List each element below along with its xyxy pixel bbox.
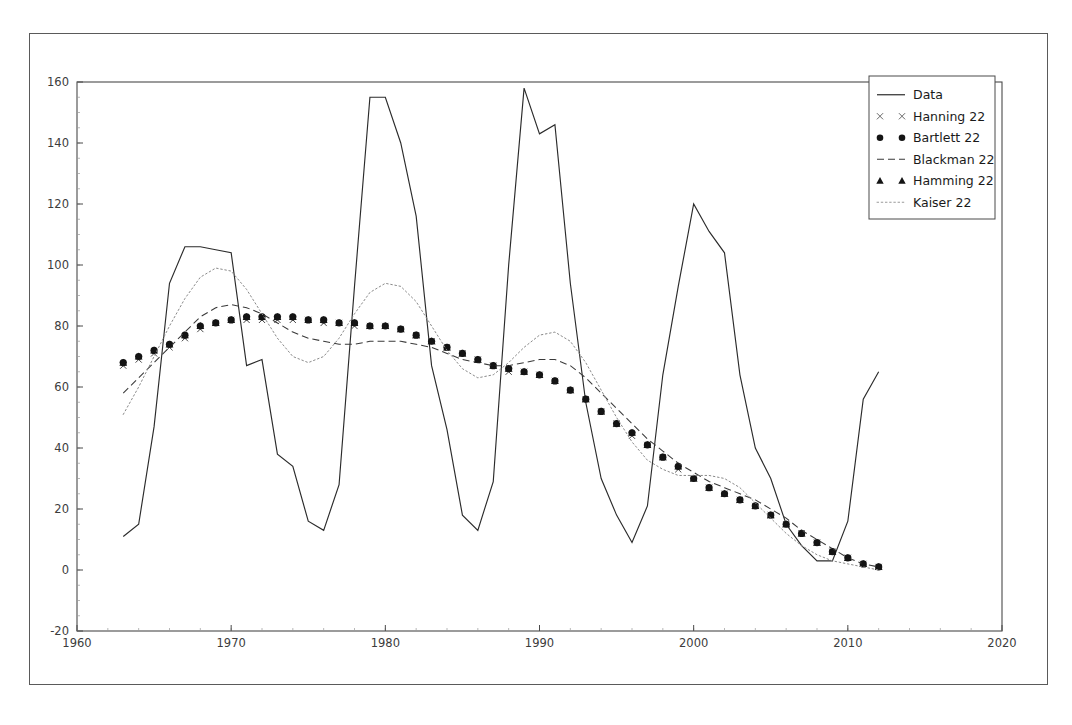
- plot-border: [77, 82, 1002, 631]
- series-blackman-22: [123, 305, 878, 567]
- series-bartlett-22: [120, 313, 883, 570]
- blackman-line: [123, 305, 878, 567]
- y-tick-label: 140: [47, 136, 69, 150]
- chart-svg: -200204060801001201401601960197019801990…: [0, 0, 1072, 725]
- legend-label: Hanning 22: [913, 109, 985, 124]
- plot-area: -200204060801001201401601960197019801990…: [0, 0, 1072, 725]
- legend-label: Hamming 22: [913, 173, 994, 188]
- x-tick-label: 1980: [371, 636, 400, 650]
- page-root: -200204060801001201401601960197019801990…: [0, 0, 1072, 725]
- legend-layer: DataHanning 22Bartlett 22Blackman 22Hamm…: [869, 76, 995, 219]
- series-hamming-22: [119, 313, 882, 570]
- x-tick-label: 1960: [62, 636, 91, 650]
- series-layer: [119, 88, 882, 570]
- x-tick-label: 2000: [679, 636, 708, 650]
- y-tick-label: 120: [47, 197, 69, 211]
- x-tick-label: 2010: [833, 636, 862, 650]
- legend-label: Kaiser 22: [913, 195, 971, 210]
- x-tick-label: 1970: [217, 636, 246, 650]
- legend-label: Data: [913, 87, 943, 102]
- legend-circle-marker-icon: [899, 134, 906, 141]
- y-tick-label: 20: [54, 502, 69, 516]
- data-line: [123, 88, 878, 561]
- series-data: [123, 88, 878, 561]
- x-tick-label: 1990: [525, 636, 554, 650]
- series-hanning-22: [120, 317, 882, 570]
- kaiser-line: [123, 268, 878, 570]
- series-kaiser-22: [123, 268, 878, 570]
- y-tick-label: 0: [62, 563, 69, 577]
- legend-label: Bartlett 22: [913, 130, 980, 145]
- y-tick-label: 80: [54, 319, 69, 333]
- legend-circle-marker-icon: [877, 134, 884, 141]
- y-tick-label: 160: [47, 75, 69, 89]
- y-tick-label: 60: [54, 380, 69, 394]
- y-tick-label: 40: [54, 441, 69, 455]
- y-tick-label: 100: [47, 258, 69, 272]
- x-tick-label: 2020: [987, 636, 1016, 650]
- legend-label: Blackman 22: [913, 152, 994, 167]
